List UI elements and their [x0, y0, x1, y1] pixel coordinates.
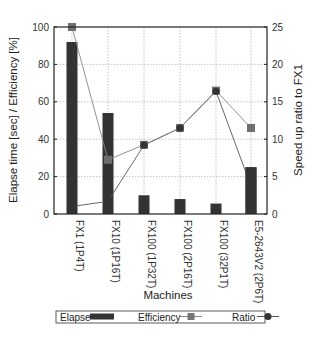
y2-axis-title: Speed up ratio to FX1 — [292, 64, 304, 176]
y2-tick-label: 0 — [272, 209, 278, 220]
efficiency-line — [72, 27, 251, 160]
x-tick-label: FX10 (1P16T) — [110, 220, 121, 283]
series-lines — [68, 23, 257, 214]
plot-frame — [54, 27, 267, 214]
y-tick-label: 0 — [43, 209, 49, 220]
efficiency-square-marker — [104, 156, 112, 164]
elapse-bars — [67, 42, 257, 214]
grid-lines — [54, 27, 267, 214]
x-tick-label: FX100 (32P1T) — [218, 220, 229, 288]
x-tick-label: E5-2643V2 (2P6T) — [253, 220, 264, 303]
legend: Elapse Efficiency Ratio — [56, 311, 279, 323]
left-axis-ticks: 020406080100 — [32, 22, 57, 220]
x-tick-label: FX100 (1P32T) — [146, 220, 157, 288]
ratio-circle-marker — [212, 88, 219, 95]
elapse-bar — [67, 42, 78, 214]
elapse-bar — [211, 204, 222, 214]
ratio-circle-marker — [104, 198, 111, 205]
legend-efficiency-square-icon — [188, 313, 195, 320]
y2-tick-label: 20 — [272, 59, 284, 70]
efficiency-square-marker — [247, 124, 255, 132]
y2-tick-label: 25 — [272, 22, 284, 33]
chart: 020406080100 0510152025 FX1 (1P4T)FX10 (… — [0, 0, 318, 338]
x-axis-title: Machines — [143, 289, 192, 301]
ratio-line — [72, 91, 251, 206]
elapse-bar — [175, 199, 186, 214]
y-tick-label: 40 — [38, 134, 50, 145]
y-tick-label: 80 — [38, 59, 50, 70]
y2-tick-label: 15 — [272, 96, 284, 107]
elapse-bar — [246, 167, 257, 214]
legend-elapse-label: Elapse — [60, 312, 91, 323]
x-tick-label: FX1 (1P4T) — [74, 220, 85, 272]
legend-ratio-circle-icon — [265, 313, 272, 320]
legend-ratio-label: Ratio — [232, 312, 256, 323]
ratio-circle-marker — [68, 203, 75, 210]
y-tick-label: 100 — [32, 22, 49, 33]
x-tick-label: FX100 (2P16T) — [182, 220, 193, 288]
ratio-circle-marker — [140, 142, 147, 149]
y2-tick-label: 10 — [272, 134, 284, 145]
elapse-bar — [139, 195, 150, 214]
legend-efficiency-label: Efficiency — [138, 312, 181, 323]
y-tick-label: 60 — [38, 96, 50, 107]
y2-tick-label: 5 — [272, 171, 278, 182]
y-axis-title: Elapse time [sec] / Efficiency [%] — [7, 37, 19, 203]
y-tick-label: 20 — [38, 171, 50, 182]
ratio-circle-marker — [176, 124, 183, 131]
legend-elapse-swatch — [90, 314, 114, 320]
